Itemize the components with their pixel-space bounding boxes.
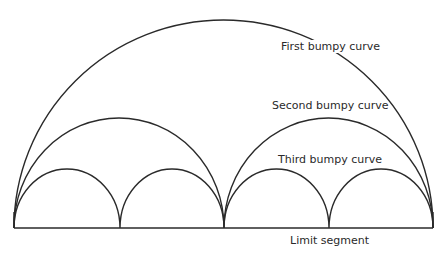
diagram-figure bbox=[0, 0, 443, 257]
second-curve-label: Second bumpy curve bbox=[272, 99, 388, 112]
limit-segment-label: Limit segment bbox=[290, 234, 369, 247]
third-curve-label: Third bumpy curve bbox=[278, 153, 382, 166]
bumpy-curves-diagram: First bumpy curve Second bumpy curve Thi… bbox=[0, 0, 443, 257]
first-curve-label: First bumpy curve bbox=[279, 40, 382, 53]
second-bumpy-curve bbox=[14, 118, 433, 228]
third-bumpy-curve bbox=[14, 169, 433, 228]
